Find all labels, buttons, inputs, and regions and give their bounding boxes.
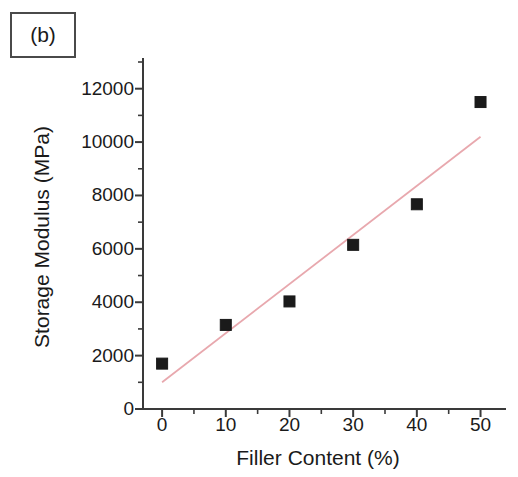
- figure-panel-b: (b) Storage Modulus (MPa) Filler Content…: [0, 0, 518, 477]
- data-markers-group: [157, 97, 486, 370]
- plot-area: [0, 0, 518, 477]
- data-point-marker: [157, 358, 168, 369]
- data-point-marker: [348, 239, 359, 250]
- trend-line: [162, 137, 480, 383]
- data-point-marker: [411, 199, 422, 210]
- trend-line-group: [162, 137, 480, 383]
- data-point-marker: [284, 296, 295, 307]
- data-point-marker: [220, 319, 231, 330]
- data-point-marker: [475, 97, 486, 108]
- axes-group: [135, 58, 506, 417]
